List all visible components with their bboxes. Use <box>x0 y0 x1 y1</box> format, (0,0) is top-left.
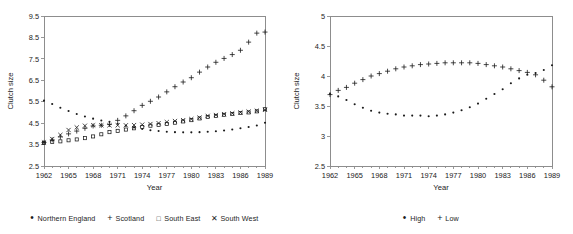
y-axis-title: Clutch size <box>292 72 301 109</box>
data-point <box>256 124 258 126</box>
x-axis-title: Year <box>433 183 449 192</box>
data-point <box>518 77 520 79</box>
x-tick-label: 1986 <box>519 171 535 180</box>
data-point <box>428 115 430 117</box>
legend-label: Low <box>444 214 459 223</box>
data-point <box>223 129 225 131</box>
data-point <box>385 69 390 74</box>
x-tick-label: 1968 <box>85 171 101 180</box>
data-point <box>477 103 479 105</box>
data-point <box>444 113 446 115</box>
legend-label: Northern England <box>37 214 96 223</box>
data-point <box>91 123 96 128</box>
data-point <box>164 89 169 94</box>
data-point <box>403 115 405 117</box>
x-tick-label: 1968 <box>371 171 387 180</box>
legend-left: •Northern England+Scotland□South East✕So… <box>0 213 286 223</box>
square-marker-icon: □ <box>154 215 163 222</box>
data-point <box>452 112 454 114</box>
dot-marker-icon: • <box>400 214 409 221</box>
x-tick-label: 1965 <box>60 171 76 180</box>
y-tick-label: 4.5 <box>29 119 39 128</box>
plot-frame <box>44 16 265 166</box>
data-point <box>198 131 200 133</box>
x-tick-label: 1977 <box>159 171 175 180</box>
data-point <box>369 74 374 79</box>
data-point <box>551 64 553 66</box>
data-point <box>67 139 70 142</box>
data-point <box>123 113 128 118</box>
data-series <box>328 60 555 97</box>
data-point <box>541 78 546 83</box>
y-tick-label: 3.5 <box>29 140 39 149</box>
data-point <box>230 52 235 57</box>
data-point <box>461 109 463 111</box>
data-point <box>92 118 94 120</box>
legend-label: Scotland <box>114 214 144 223</box>
plus-marker-icon: + <box>105 215 114 222</box>
data-point <box>508 66 513 71</box>
legend-entry[interactable]: •High <box>400 213 425 223</box>
data-point <box>248 126 250 128</box>
y-tick-label: 5.5 <box>29 97 39 106</box>
legend-entry[interactable]: □South East <box>154 213 200 223</box>
data-point <box>197 70 202 75</box>
data-point <box>387 113 389 115</box>
legend-entry[interactable]: ✕South West <box>210 213 258 223</box>
legend-label: South West <box>219 214 258 223</box>
y-axis-title: Clutch size <box>6 72 15 109</box>
x-axis: 1962196519681971197419771980198319861989 <box>36 166 273 180</box>
x-tick-label: 1989 <box>544 171 560 180</box>
data-point <box>107 122 112 127</box>
x-tick-label: 1971 <box>109 171 125 180</box>
x-tick-label: 1983 <box>208 171 224 180</box>
data-point <box>533 72 538 77</box>
data-point <box>484 62 489 67</box>
data-point <box>459 60 464 65</box>
data-point <box>467 60 472 65</box>
data-point <box>100 120 102 122</box>
x-tick-label: 1971 <box>396 171 412 180</box>
x-tick-label: 1980 <box>183 171 199 180</box>
data-point <box>378 112 380 114</box>
data-point <box>264 122 266 124</box>
data-series <box>42 108 267 145</box>
y-tick-label: 6.5 <box>29 76 39 85</box>
y-tick-label: 8.5 <box>29 33 39 42</box>
data-point <box>156 95 161 100</box>
legend-entry[interactable]: •Northern England <box>28 213 96 223</box>
y-axis: 2.53.54.55.56.57.58.59.5 <box>29 12 44 171</box>
x-tick-label: 1962 <box>36 171 52 180</box>
data-point <box>492 63 497 68</box>
legend-entry[interactable]: +Scotland <box>105 213 144 223</box>
data-point <box>215 130 217 132</box>
data-point <box>59 140 62 143</box>
x-axis: 1962196519681971197419771980198319861989 <box>322 166 560 180</box>
data-point <box>443 60 448 65</box>
data-point <box>419 115 421 117</box>
x-axis-title: Year <box>147 183 163 192</box>
legend-entry[interactable]: +Low <box>435 213 459 223</box>
chart-panel-left: 2.53.54.55.56.57.58.59.51962196519681971… <box>0 0 286 234</box>
legend-label: South East <box>163 214 200 223</box>
data-point <box>140 103 145 108</box>
data-point <box>263 30 268 35</box>
data-point <box>402 65 407 70</box>
figure-root: 2.53.54.55.56.57.58.59.51962196519681971… <box>0 0 573 234</box>
data-point <box>43 100 45 102</box>
data-point <box>51 103 53 105</box>
data-point <box>100 133 103 136</box>
data-point <box>426 62 431 67</box>
x-tick-label: 1983 <box>494 171 510 180</box>
data-point <box>410 63 415 68</box>
data-point <box>124 123 128 127</box>
data-series <box>43 100 266 134</box>
data-point <box>76 113 78 115</box>
data-point <box>254 31 259 36</box>
x-tick-label: 1974 <box>420 171 436 180</box>
x-tick-label: 1989 <box>257 171 273 180</box>
data-point <box>238 48 243 53</box>
data-point <box>360 77 365 82</box>
y-tick-label: 9.5 <box>29 12 39 21</box>
data-point <box>543 69 545 71</box>
